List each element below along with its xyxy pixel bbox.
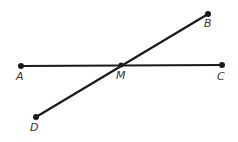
label-m: M bbox=[116, 69, 126, 82]
label-b: B bbox=[204, 17, 212, 30]
label-a: A bbox=[15, 70, 24, 83]
point-c bbox=[219, 62, 225, 68]
label-d: D bbox=[30, 121, 38, 134]
geometry-diagram: A M C B D bbox=[0, 0, 238, 142]
point-d bbox=[33, 114, 39, 120]
label-c: C bbox=[217, 70, 225, 83]
point-a bbox=[18, 63, 24, 69]
point-m bbox=[119, 63, 124, 68]
